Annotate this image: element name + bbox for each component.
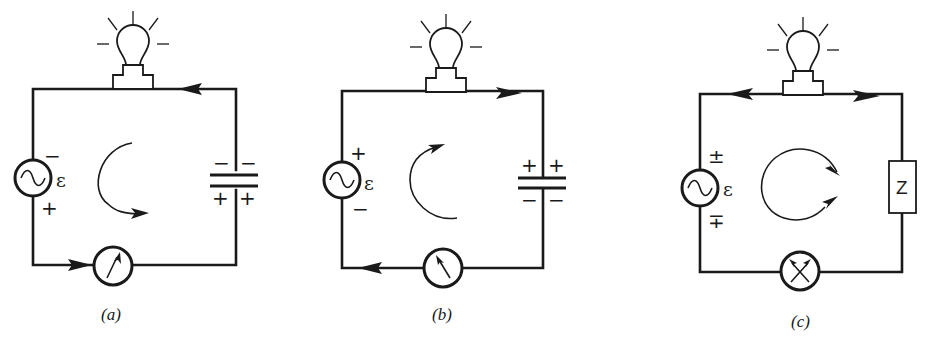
source-bottom-sign: − <box>352 197 369 221</box>
source-top-sign: ± <box>708 144 725 168</box>
capacitor-top-sign-right: − <box>240 151 257 175</box>
emf-label: ε <box>364 172 374 194</box>
light-bulb-icon <box>410 14 482 92</box>
capacitor-icon <box>210 175 258 186</box>
caption-b: (b) <box>432 305 452 324</box>
caption-c: (c) <box>791 312 810 331</box>
circuit-figure: − + ε − − + + (a) + − ε <box>0 0 928 343</box>
capacitor-top-sign-left: + <box>521 153 538 177</box>
capacitor-bottom-sign-right: − <box>548 188 565 212</box>
arrow-right-icon <box>496 87 522 99</box>
circuit-a: − + ε − − + + (a) <box>15 11 258 324</box>
source-bottom-sign: ∓ <box>708 209 725 233</box>
arrow-right-icon <box>853 90 880 102</box>
emf-label: ε <box>56 169 66 191</box>
ac-source-icon <box>324 162 360 198</box>
current-loop-arc <box>410 147 457 218</box>
circuit-b: + − ε + + − − (b) <box>324 14 566 324</box>
capacitor-top-sign-right: + <box>548 153 565 177</box>
light-bulb-icon <box>97 11 169 89</box>
emf-label: ε <box>723 178 733 200</box>
source-bottom-sign: + <box>41 196 58 220</box>
capacitor-bottom-sign-left: + <box>212 186 229 210</box>
capacitor-top-sign-left: − <box>213 151 230 175</box>
capacitor-icon <box>518 178 566 188</box>
capacitor-bottom-sign-right: + <box>239 186 256 210</box>
caption-a: (a) <box>101 305 121 324</box>
capacitor-bottom-sign-left: − <box>521 188 538 212</box>
current-loop-arc <box>98 143 142 214</box>
impedance-label: Z <box>896 177 908 198</box>
source-top-sign: + <box>350 141 367 165</box>
ammeter-icon <box>424 249 462 287</box>
circuit-c: ± ∓ ε Z (c) <box>682 17 916 331</box>
ammeter-icon <box>781 252 819 290</box>
ac-source-icon <box>682 170 718 206</box>
source-top-sign: − <box>44 144 61 168</box>
current-loop-arc <box>762 149 837 220</box>
ammeter-icon <box>94 247 132 285</box>
light-bulb-icon <box>767 17 839 95</box>
